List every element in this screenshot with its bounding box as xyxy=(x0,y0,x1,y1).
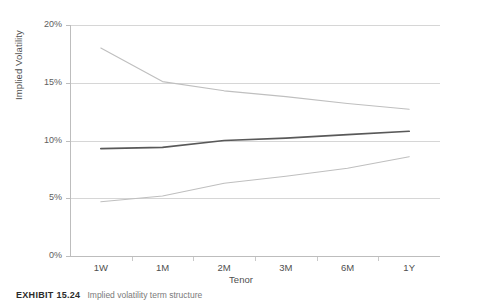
line-chart: 0%5%10%15%20% 1W1M2M3M6M1Y Implied Volat… xyxy=(0,0,482,280)
series-line-lower xyxy=(101,157,409,202)
series-layer xyxy=(0,0,482,280)
caption-label: EXHIBIT 15.24 xyxy=(16,290,80,300)
exhibit-figure: 0%5%10%15%20% 1W1M2M3M6M1Y Implied Volat… xyxy=(0,0,482,303)
caption-text: Implied volatility term structure xyxy=(87,290,202,300)
series-line-upper xyxy=(101,48,409,109)
figure-caption: EXHIBIT 15.24Implied volatility term str… xyxy=(16,290,476,301)
series-line-middle xyxy=(101,131,409,148)
